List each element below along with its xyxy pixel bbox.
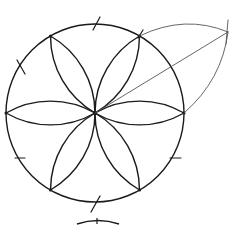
- rosette-diagram: [0, 0, 235, 225]
- construction-arc-top: [140, 24, 229, 36]
- rosette-svg: [0, 0, 235, 225]
- construction-diagonal: [95, 32, 228, 113]
- petal-left: [6, 101, 95, 125]
- construction-arc-side: [184, 32, 228, 113]
- partial-arc-bottom: [77, 221, 119, 225]
- construction-lines: [95, 20, 228, 113]
